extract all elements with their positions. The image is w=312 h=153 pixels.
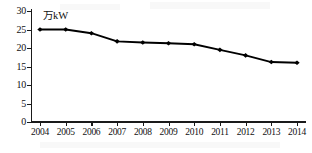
data-series-line — [31, 11, 306, 122]
x-axis-tick-label: 2006 — [82, 128, 100, 138]
data-point-marker — [114, 39, 119, 44]
data-point-marker — [89, 31, 94, 36]
data-point-marker — [63, 27, 68, 32]
scan-artifact — [40, 142, 280, 148]
x-axis-tick-label: 2005 — [57, 128, 75, 138]
data-point-marker — [192, 42, 197, 47]
y-axis-tick-label: 10 — [16, 80, 26, 90]
x-axis-tick-label: 2012 — [237, 128, 255, 138]
data-point-marker — [166, 41, 171, 46]
data-point-marker — [269, 60, 274, 65]
x-axis-tick-label: 2014 — [288, 128, 306, 138]
x-axis-tick-label: 2010 — [185, 128, 203, 138]
y-axis-tick-label: 30 — [16, 6, 26, 16]
y-axis-tick-label: 25 — [16, 25, 26, 35]
scan-artifact — [150, 2, 270, 9]
x-axis-tick-label: 2013 — [262, 128, 280, 138]
x-axis-tick-label: 2004 — [31, 128, 49, 138]
plot-area — [31, 11, 306, 122]
y-axis-tick — [27, 122, 31, 123]
y-axis-tick-label: 5 — [21, 99, 26, 109]
y-axis-tick-label: 0 — [21, 117, 26, 127]
data-point-marker — [294, 61, 299, 66]
series-polyline — [40, 30, 297, 63]
scan-artifact — [60, 4, 120, 10]
x-axis-tick-label: 2008 — [134, 128, 152, 138]
data-point-marker — [140, 40, 145, 45]
x-axis-tick-label: 2009 — [160, 128, 178, 138]
y-axis-tick-label: 20 — [16, 43, 26, 53]
x-axis-tick-label: 2007 — [108, 128, 126, 138]
x-axis-tick-label: 2011 — [211, 128, 228, 138]
line-chart: 万kW 051015202530 20042005200620072008200… — [0, 0, 312, 153]
y-axis-tick-label: 15 — [16, 62, 26, 72]
data-point-marker — [217, 48, 222, 53]
data-point-marker — [243, 53, 248, 58]
data-point-marker — [37, 27, 42, 32]
